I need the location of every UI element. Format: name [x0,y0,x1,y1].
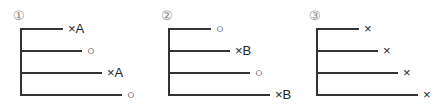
branch-line [20,94,122,96]
trunk-line [316,28,318,96]
branch-line [20,28,63,30]
branch-marker: ○ [127,88,135,101]
branch-marker: ×A [68,22,84,35]
branch-line [168,50,230,52]
trunk-line [168,28,170,96]
branch-line [168,94,270,96]
branch-line [20,50,82,52]
branch-marker: ○ [87,44,95,57]
branch-marker: ×A [107,66,123,79]
tree-panel-3: ③×××× [296,0,446,105]
trunk-line [20,28,22,96]
branch-line [168,72,250,74]
branch-line [316,28,359,30]
panel-number: ② [161,9,173,22]
branch-marker: ○ [255,66,263,79]
branch-marker: ○ [216,22,224,35]
branch-line [168,28,211,30]
tree-panel-1: ①×A○×A○ [0,0,150,105]
branch-marker: × [403,66,411,79]
tree-panel-2: ②○×B○×B [148,0,298,105]
panel-number: ① [13,9,25,22]
branch-marker: × [364,22,372,35]
branch-line [316,94,418,96]
branch-marker: × [383,44,391,57]
branch-line [316,50,378,52]
branch-marker: ×B [275,88,291,101]
panel-number: ③ [309,9,321,22]
branch-line [316,72,398,74]
branch-marker: ×B [235,44,251,57]
branch-line [20,72,102,74]
branch-marker: × [423,88,431,101]
